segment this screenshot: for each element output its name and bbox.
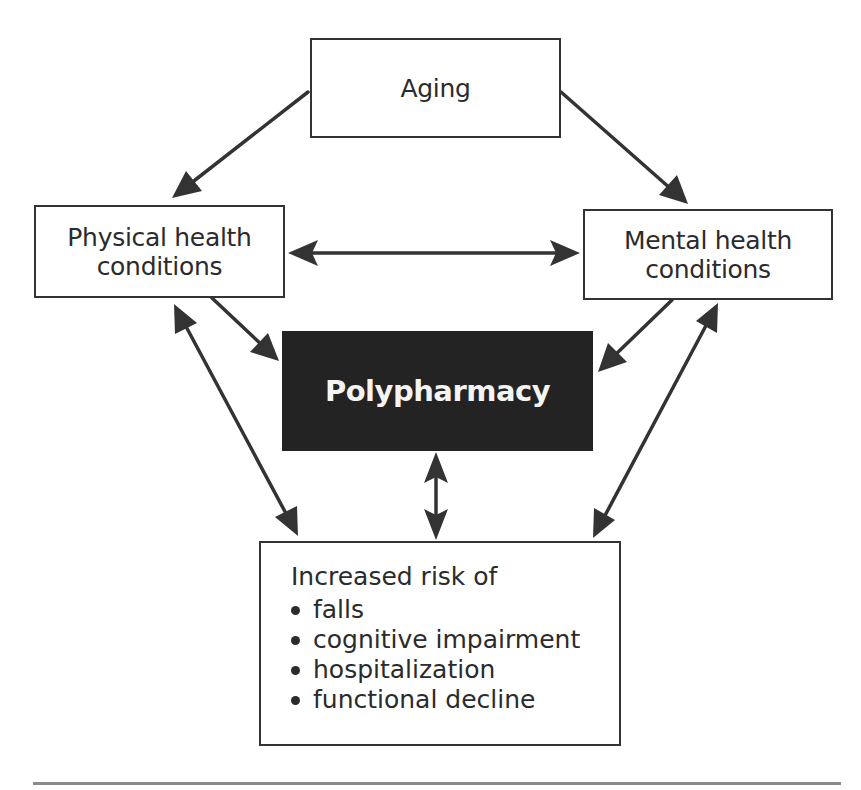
arrow-mental-to-polypharmacy [598,300,672,372]
node-risk-title: Increased risk of [291,562,497,592]
arrow-mental-risk-bidirectional [593,303,718,538]
node-polypharmacy: Polypharmacy [282,331,593,451]
node-physical-health-conditions: Physical health conditions [34,205,285,298]
arrow-physical-risk-bidirectional [174,304,298,536]
risk-item-label: functional decline [313,685,535,714]
risk-item: falls [291,595,580,625]
node-mental-label-line1: Mental health [624,226,792,255]
bullet-icon [291,666,300,675]
node-physical-label-line1: Physical health [67,223,251,252]
node-aging: Aging [310,38,561,138]
node-increased-risk: Increased risk of falls cognitive impair… [259,541,621,746]
node-physical-label-line2: conditions [97,252,223,281]
node-aging-label: Aging [400,74,470,103]
arrow-aging-to-physical [172,92,308,198]
risk-item-label: cognitive impairment [313,625,580,654]
arrow-aging-to-mental [561,92,688,204]
node-mental-health-conditions: Mental health conditions [583,209,833,300]
risk-item-label: hospitalization [313,655,495,684]
risk-item: hospitalization [291,655,580,685]
horizontal-rule [33,782,841,785]
node-mental-label: Mental health conditions [624,226,792,284]
bullet-icon [291,636,300,645]
bullet-icon [291,606,300,615]
arrow-physical-to-polypharmacy [212,298,279,361]
risk-item: functional decline [291,685,580,715]
risk-item-label: falls [313,595,364,624]
node-physical-label: Physical health conditions [67,223,251,281]
arrow-physical-mental-bidirectional [288,240,580,266]
risk-item: cognitive impairment [291,625,580,655]
risk-list: falls cognitive impairment hospitalizati… [291,595,580,715]
node-polypharmacy-label: Polypharmacy [325,377,550,406]
bullet-icon [291,696,300,705]
arrow-polypharmacy-risk-bidirectional [424,452,448,540]
node-mental-label-line2: conditions [645,255,771,284]
